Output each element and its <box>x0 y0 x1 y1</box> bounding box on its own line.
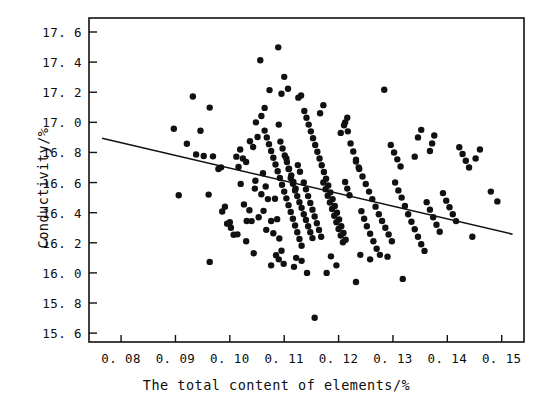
data-point <box>373 246 379 252</box>
data-point <box>341 122 347 128</box>
data-point <box>388 142 394 148</box>
data-point <box>384 253 390 259</box>
x-tick-label: 0. 13 <box>373 351 413 366</box>
data-point <box>292 185 298 191</box>
data-point <box>228 225 234 231</box>
data-point <box>323 270 329 276</box>
data-point <box>190 93 196 99</box>
data-point <box>412 153 418 159</box>
data-point <box>294 229 300 235</box>
data-point <box>279 145 285 151</box>
data-point <box>297 169 303 175</box>
data-point <box>274 168 280 174</box>
data-point <box>184 141 190 147</box>
data-point <box>472 155 478 161</box>
data-point <box>298 243 304 249</box>
data-point <box>293 255 299 261</box>
x-tick-label: 0. 10 <box>210 351 250 366</box>
data-point <box>305 193 311 199</box>
y-tick-label: 17. 6 <box>18 25 82 40</box>
data-point <box>312 142 318 148</box>
data-point <box>379 218 385 224</box>
data-point <box>246 207 252 213</box>
data-point <box>367 256 373 262</box>
data-point <box>261 127 267 133</box>
data-point <box>261 105 267 111</box>
data-point <box>314 220 320 226</box>
x-tick-label: 0. 11 <box>264 351 304 366</box>
data-point <box>366 188 372 194</box>
data-point <box>257 57 263 63</box>
data-point <box>307 229 313 235</box>
data-point <box>357 252 363 258</box>
data-point <box>334 209 340 215</box>
data-point <box>469 234 475 240</box>
data-point <box>260 208 266 214</box>
data-point <box>171 126 177 132</box>
data-point <box>367 231 373 237</box>
data-point <box>279 182 285 188</box>
data-point <box>391 149 397 155</box>
data-point <box>353 279 359 285</box>
data-point <box>285 86 291 92</box>
data-point <box>255 214 261 220</box>
data-point <box>278 91 284 97</box>
data-point <box>210 153 216 159</box>
data-point <box>281 74 287 80</box>
data-point <box>270 155 276 161</box>
data-point <box>270 230 276 236</box>
data-point <box>412 226 418 232</box>
data-point <box>250 144 256 150</box>
data-point <box>392 179 398 185</box>
data-point <box>385 231 391 237</box>
data-point <box>205 191 211 197</box>
data-point <box>227 219 233 225</box>
data-point <box>272 161 278 167</box>
data-point <box>340 230 346 236</box>
data-point <box>277 138 283 144</box>
data-point <box>431 132 437 138</box>
data-point <box>301 108 307 114</box>
data-point <box>258 191 264 197</box>
data-point <box>281 188 287 194</box>
data-point <box>333 262 339 268</box>
data-point <box>456 144 462 150</box>
data-point <box>268 218 274 224</box>
data-point <box>316 227 322 233</box>
data-point <box>243 218 249 224</box>
data-point <box>466 164 472 170</box>
data-point <box>363 181 369 187</box>
data-point <box>342 179 348 185</box>
data-point <box>251 250 257 256</box>
data-point <box>347 140 353 146</box>
data-point <box>338 130 344 136</box>
data-point <box>459 151 465 157</box>
axes-frame <box>89 18 524 342</box>
data-point <box>308 128 314 134</box>
x-tick-label: 0. 15 <box>482 351 522 366</box>
data-point <box>296 199 302 205</box>
data-point <box>437 229 443 235</box>
data-point <box>292 222 298 228</box>
data-point <box>253 119 259 125</box>
data-point <box>400 276 406 282</box>
y-axis-ticks <box>89 32 97 333</box>
data-point <box>254 134 260 140</box>
data-point <box>201 153 207 159</box>
data-point <box>264 134 270 140</box>
data-point <box>336 216 342 222</box>
x-tick-label: 0. 14 <box>428 351 468 366</box>
data-point <box>405 211 411 217</box>
data-point <box>294 193 300 199</box>
data-point <box>233 153 239 159</box>
data-point <box>488 188 494 194</box>
data-point <box>338 223 344 229</box>
data-point <box>296 236 302 242</box>
data-point <box>440 190 446 196</box>
data-point <box>243 159 249 165</box>
data-point <box>290 215 296 221</box>
data-point <box>328 253 334 259</box>
data-point <box>320 102 326 108</box>
data-point <box>266 141 272 147</box>
data-point <box>415 234 421 240</box>
